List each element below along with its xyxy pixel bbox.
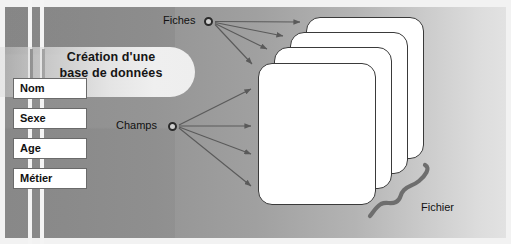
field-box-age: Age bbox=[13, 138, 87, 159]
title-line-1: Création d'une bbox=[26, 49, 196, 65]
field-box-nom: Nom bbox=[13, 78, 87, 99]
diagram-canvas: Création d'une base de données Nom Sexe … bbox=[0, 0, 511, 244]
field-box-metier: Métier bbox=[13, 168, 87, 189]
fiches-label: Fiches bbox=[163, 14, 195, 26]
field-box-sexe: Sexe bbox=[13, 108, 87, 129]
record-card-1 bbox=[258, 63, 376, 205]
champs-node-dot bbox=[168, 122, 177, 131]
fichier-label: Fichier bbox=[421, 201, 454, 213]
fiches-node-dot bbox=[204, 17, 213, 26]
page-title: Création d'une base de données bbox=[26, 49, 196, 81]
champs-label: Champs bbox=[116, 119, 157, 131]
